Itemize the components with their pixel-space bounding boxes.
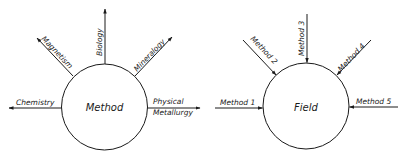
branch-method-3: Method 3 <box>297 14 307 63</box>
field-diagram: Field Method 1 Method 2 Method 3 Method … <box>215 14 398 149</box>
branch-label-physical: Physical <box>153 97 184 106</box>
branch-label-biology: Biology <box>95 28 104 56</box>
branch-label-method-1: Method 1 <box>220 98 255 107</box>
field-center-label: Field <box>294 102 318 113</box>
method-center-label: Method <box>86 102 124 113</box>
branch-method-5: Method 5 <box>350 97 399 107</box>
branch-method-2: Method 2 <box>243 34 280 75</box>
diagram-canvas: Method Chemistry Magnetism Biology Miner… <box>0 0 406 161</box>
branch-magnetism: Magnetism <box>37 34 75 76</box>
branch-label-magnetism: Magnetism <box>40 34 75 70</box>
branch-label-chemistry: Chemistry <box>16 98 55 107</box>
branch-physical-metallurgy: Physical Metallurgy <box>148 97 201 117</box>
branch-label-method-4: Method 4 <box>336 41 367 73</box>
method-diagram: Method Chemistry Magnetism Biology Miner… <box>9 9 200 150</box>
branch-method-4: Method 4 <box>336 40 371 75</box>
branch-biology: Biology <box>95 9 105 64</box>
branch-chemistry: Chemistry <box>9 98 62 108</box>
branch-method-1: Method 1 <box>215 98 263 108</box>
branch-label-method-3: Method 3 <box>297 20 306 56</box>
branch-label-method-5: Method 5 <box>356 97 392 106</box>
branch-label-mineralogy: Mineralogy <box>132 37 167 74</box>
branch-label-metallurgy: Metallurgy <box>153 108 193 117</box>
branch-mineralogy: Mineralogy <box>132 37 172 76</box>
